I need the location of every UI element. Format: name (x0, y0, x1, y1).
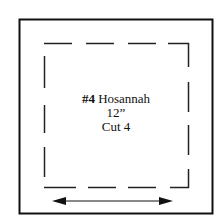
block-name: Hosannah (98, 91, 150, 106)
cut-count: Cut 4 (44, 120, 188, 134)
block-title: #4 Hosannah (44, 92, 188, 106)
block-number: #4 (82, 91, 95, 106)
block-size: 12” (44, 106, 188, 120)
grain-arrow-icon (52, 197, 173, 205)
block-label: #4 Hosannah 12” Cut 4 (44, 92, 188, 134)
